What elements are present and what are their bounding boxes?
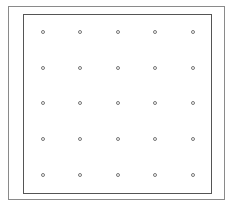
- grid-dot[interactable]: [78, 173, 82, 177]
- grid-dot[interactable]: [191, 173, 195, 177]
- grid-dot[interactable]: [191, 66, 195, 70]
- grid-dot[interactable]: [78, 30, 82, 34]
- grid-dot[interactable]: [153, 66, 157, 70]
- grid-dot[interactable]: [153, 101, 157, 105]
- grid-dot[interactable]: [116, 66, 120, 70]
- grid-dot[interactable]: [116, 30, 120, 34]
- grid-dot[interactable]: [41, 66, 45, 70]
- grid-dot[interactable]: [116, 101, 120, 105]
- grid-dot[interactable]: [153, 137, 157, 141]
- grid-dot[interactable]: [78, 101, 82, 105]
- grid-dot[interactable]: [41, 173, 45, 177]
- grid-dot[interactable]: [41, 30, 45, 34]
- grid-dot[interactable]: [41, 101, 45, 105]
- grid-dot[interactable]: [78, 66, 82, 70]
- grid-dot[interactable]: [191, 137, 195, 141]
- grid-dot[interactable]: [153, 173, 157, 177]
- grid-dot[interactable]: [153, 30, 157, 34]
- grid-dot[interactable]: [78, 137, 82, 141]
- grid-dot[interactable]: [41, 137, 45, 141]
- grid-dot[interactable]: [191, 101, 195, 105]
- grid-dot[interactable]: [116, 173, 120, 177]
- grid-dot[interactable]: [191, 30, 195, 34]
- grid-dot[interactable]: [116, 137, 120, 141]
